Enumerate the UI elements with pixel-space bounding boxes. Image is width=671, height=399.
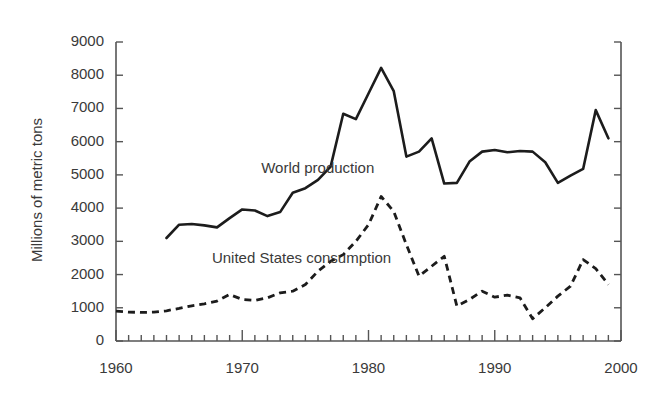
- data-series: [116, 68, 608, 319]
- y-tick-label: 8000: [71, 65, 104, 82]
- x-tick-label: 1980: [352, 359, 385, 376]
- series-line-world-production: [167, 68, 609, 238]
- y-tick-label: 9000: [71, 32, 104, 49]
- y-tick-label: 2000: [71, 265, 104, 282]
- x-axis-ticks: 19601970198019902000: [99, 330, 637, 376]
- chart-figure: 0100020003000400050006000700080009000 19…: [0, 0, 671, 399]
- y-tick-label: 6000: [71, 132, 104, 149]
- y-tick-label: 4000: [71, 198, 104, 215]
- series-label-world-production: World production: [261, 159, 374, 176]
- series-label-united-states-consumption: United States consumption: [212, 249, 391, 266]
- y-tick-label: 3000: [71, 231, 104, 248]
- y-axis-ticks: 0100020003000400050006000700080009000: [71, 32, 621, 348]
- axes: [116, 42, 621, 341]
- x-tick-label: 1960: [99, 359, 132, 376]
- y-axis-title: Millions of metric tons: [28, 118, 45, 262]
- x-tick-label: 1970: [226, 359, 259, 376]
- y-tick-label: 7000: [71, 98, 104, 115]
- line-chart: 0100020003000400050006000700080009000 19…: [0, 0, 671, 399]
- y-tick-label: 0: [96, 331, 104, 348]
- x-tick-label: 1990: [478, 359, 511, 376]
- y-tick-label: 5000: [71, 165, 104, 182]
- x-tick-label: 2000: [604, 359, 637, 376]
- y-tick-label: 1000: [71, 298, 104, 315]
